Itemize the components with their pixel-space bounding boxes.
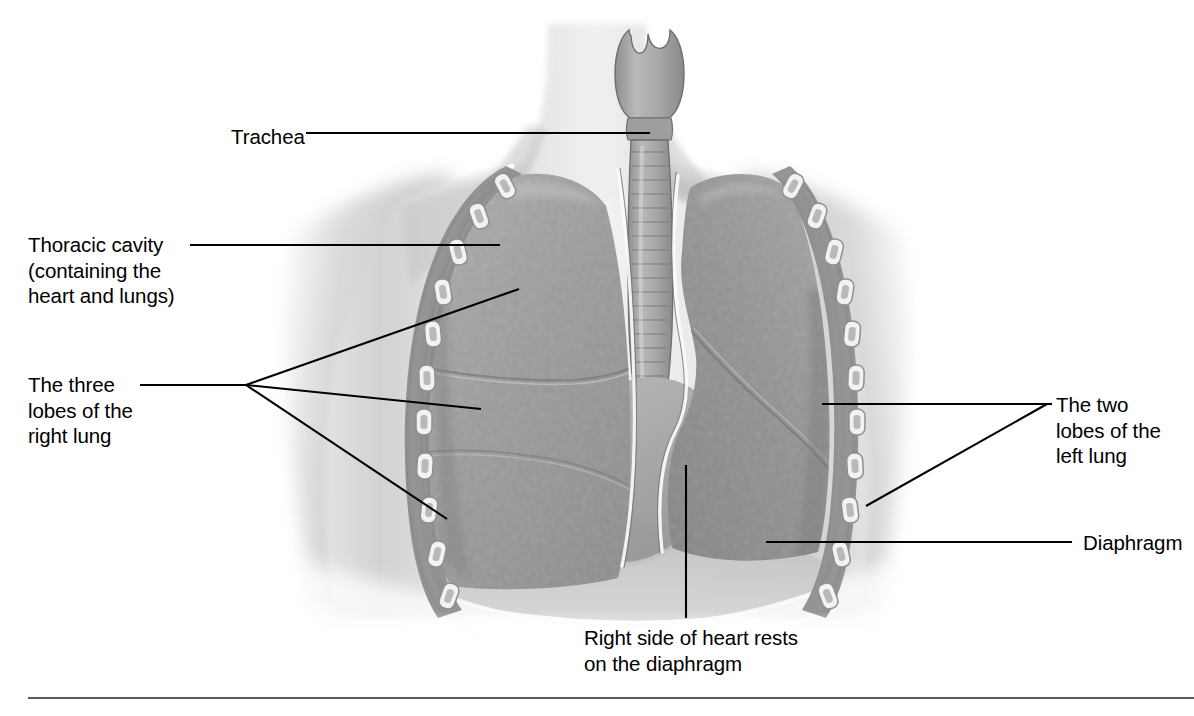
figure-bottom-rule xyxy=(28,697,1194,699)
larynx xyxy=(615,30,684,118)
cricoid-cartilage xyxy=(627,118,673,140)
label-trachea: Trachea xyxy=(231,124,305,150)
label-left-lung-lobes: The two lobes of the left lung xyxy=(1056,392,1161,469)
label-heart-on-diaphragm: Right side of heart rests on the diaphra… xyxy=(584,625,798,676)
label-right-lung-lobes: The three lobes of the right lung xyxy=(28,372,133,449)
label-diaphragm: Diaphragm xyxy=(1083,530,1182,556)
anatomical-illustration xyxy=(0,0,1194,716)
label-thoracic-cavity: Thoracic cavity (containing the heart an… xyxy=(28,232,175,309)
thoracic-cavity-figure: Trachea Thoracic cavity (containing the … xyxy=(0,0,1194,716)
